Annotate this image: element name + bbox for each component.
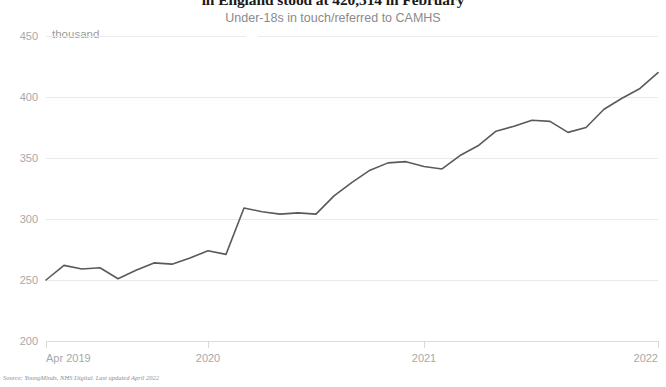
y-axis-tick-350: 350 bbox=[20, 152, 38, 164]
x-axis-tick-mark-0 bbox=[46, 341, 47, 348]
y-axis-tick-450: 450 bbox=[20, 30, 38, 42]
x-axis-tick-2020: 2020 bbox=[196, 352, 220, 364]
line-series bbox=[46, 36, 658, 341]
y-axis-tick-200: 200 bbox=[20, 335, 38, 347]
chart-figure: in England stood at 420,314 in February … bbox=[0, 0, 666, 387]
y-axis-tick-300: 300 bbox=[20, 213, 38, 225]
y-axis-tick-250: 250 bbox=[20, 274, 38, 286]
chart-title: in England stood at 420,314 in February bbox=[0, 0, 666, 9]
x-axis-tick-mark-3 bbox=[658, 341, 659, 348]
source-note: Source: YoungMinds, NHS Digital. Last up… bbox=[3, 374, 159, 381]
y-axis-tick-400: 400 bbox=[20, 91, 38, 103]
y-axis-labels: 200250300350400450 bbox=[0, 0, 44, 387]
x-axis-tick-mark-2 bbox=[424, 341, 425, 348]
x-axis-tick-2022: 2022 bbox=[634, 352, 658, 364]
x-axis-tick-apr-2019: Apr 2019 bbox=[46, 352, 91, 364]
x-axis-tick-mark-1 bbox=[208, 341, 209, 348]
chart-subtitle: Under-18s in touch/referred to CAMHS bbox=[0, 11, 666, 25]
x-axis: Apr 2019202020212022 bbox=[46, 341, 658, 367]
plot-area bbox=[46, 36, 658, 341]
x-axis-tick-2021: 2021 bbox=[412, 352, 436, 364]
